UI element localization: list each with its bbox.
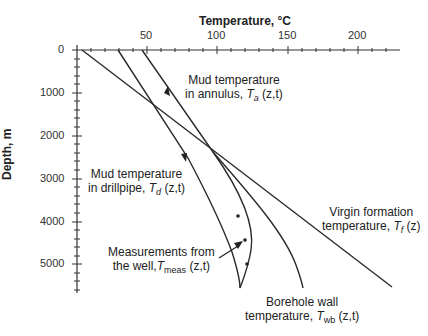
annotation-virgin-formation: Virgin formation temperature, Tf (z) bbox=[322, 205, 421, 237]
y-tick-label: 0 bbox=[58, 43, 64, 55]
measurement-point bbox=[243, 238, 247, 242]
x-tick-label: 50 bbox=[140, 29, 152, 41]
y-tick-label: 3000 bbox=[40, 172, 64, 184]
arrow-down-drillpipe-icon bbox=[181, 153, 187, 162]
measurement-point bbox=[245, 262, 249, 266]
x-tick-label: 200 bbox=[348, 29, 366, 41]
arrow-up-annulus-icon bbox=[164, 86, 170, 96]
y-tick-label: 1000 bbox=[40, 86, 64, 98]
annotation-drillpipe: Mud temperature in drillpipe, Td (z,t) bbox=[88, 167, 185, 199]
annotation-annulus: Mud temperature in annulus, Ta (z,t) bbox=[185, 73, 283, 105]
y-axis-title: Depth, m bbox=[0, 120, 14, 180]
x-axis-title: Temperature, °C bbox=[199, 14, 291, 28]
y-tick-label: 5000 bbox=[40, 257, 64, 269]
x-tick-label: 100 bbox=[207, 29, 225, 41]
measurement-pointer bbox=[219, 246, 238, 258]
y-tick-label: 2000 bbox=[40, 129, 64, 141]
y-tick-label: 4000 bbox=[40, 215, 64, 227]
x-tick-label: 150 bbox=[278, 29, 296, 41]
annotation-borehole-wall: Borehole wall temperature, Twb (z,t) bbox=[245, 295, 359, 327]
annotation-measurements: Measurements from the well,Tmeas (z,t) bbox=[108, 245, 215, 277]
chart-canvas bbox=[0, 0, 428, 336]
measurement-point bbox=[236, 214, 240, 218]
